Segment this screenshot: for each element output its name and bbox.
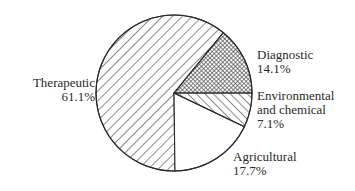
label-therapeutic: Therapeutic 61.1%	[20, 76, 95, 104]
therapeutic-percent: 61.1%	[20, 90, 95, 104]
diagnostic-name: Diagnostic	[257, 48, 313, 62]
environmental-name-line2: and chemical	[257, 103, 334, 117]
therapeutic-name: Therapeutic	[20, 76, 95, 90]
agricultural-name: Agricultural	[233, 150, 297, 164]
label-environmental: Environmental and chemical 7.1%	[257, 89, 334, 131]
label-agricultural: Agricultural 17.7%	[233, 150, 297, 178]
diagnostic-percent: 14.1%	[257, 62, 313, 76]
environmental-name-line1: Environmental	[257, 89, 334, 103]
pie-slices	[96, 15, 252, 171]
label-diagnostic: Diagnostic 14.1%	[257, 48, 313, 76]
agricultural-percent: 17.7%	[233, 164, 297, 178]
environmental-percent: 7.1%	[257, 117, 334, 131]
